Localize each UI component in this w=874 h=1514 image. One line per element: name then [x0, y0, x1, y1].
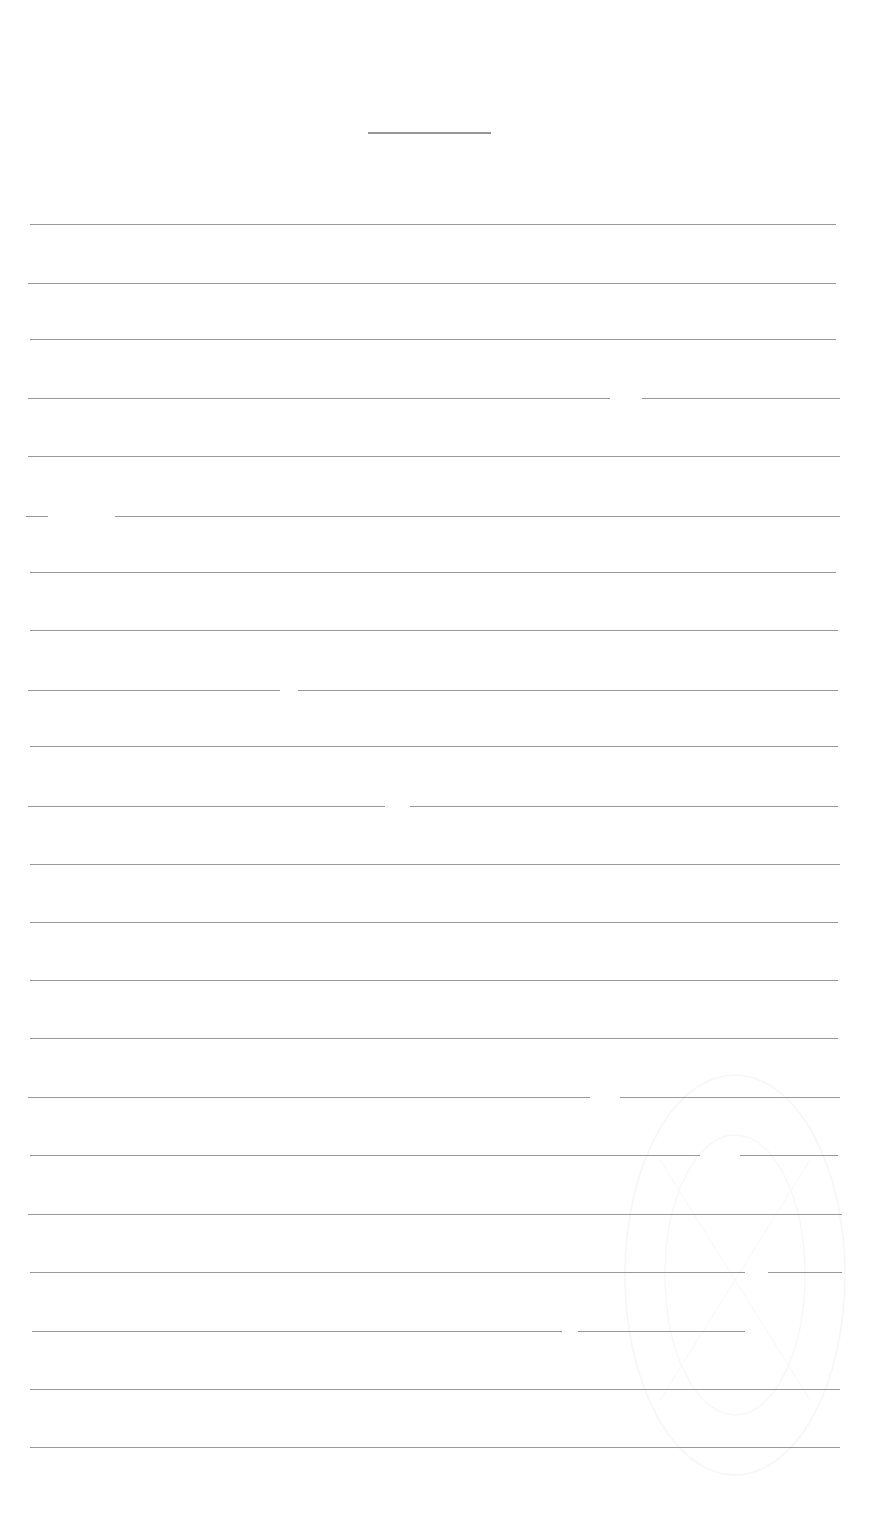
ruled-line-22: [30, 1447, 840, 1448]
ruled-line-16: [28, 1097, 590, 1098]
ruled-line-17: [30, 1155, 700, 1156]
ruled-line-3: [30, 339, 836, 340]
lined-page: [0, 0, 874, 1514]
ruled-line-11: [28, 806, 385, 807]
ruled-line-5: [28, 456, 840, 457]
ruled-line-6: [115, 516, 840, 517]
ruled-line-17: [740, 1155, 838, 1156]
ruled-line-12: [30, 864, 840, 865]
ruled-line-19: [768, 1272, 842, 1273]
ruled-line-10: [30, 746, 838, 747]
ruled-line-20: [32, 1331, 562, 1332]
ruled-line-8: [30, 630, 838, 631]
ruled-line-20: [578, 1331, 745, 1332]
ruled-line-2: [28, 283, 836, 284]
ruled-line-7: [30, 572, 836, 573]
ruled-line-15: [30, 1038, 838, 1039]
ruled-line-13: [30, 922, 838, 923]
ruled-line-18: [28, 1214, 842, 1215]
faint-watermark-icon: [600, 1040, 870, 1510]
ruled-line-16: [620, 1097, 840, 1098]
title-line: [368, 132, 491, 134]
ruled-line-9: [298, 690, 838, 691]
ruled-line-21: [30, 1389, 840, 1390]
ruled-line-9: [28, 690, 280, 691]
ruled-line-19: [30, 1272, 745, 1273]
ruled-line-1: [30, 224, 836, 225]
ruled-line-11: [410, 806, 838, 807]
ruled-line-6: [26, 516, 48, 517]
ruled-line-14: [30, 980, 838, 981]
ruled-line-4: [28, 398, 610, 399]
ruled-line-4: [642, 398, 840, 399]
